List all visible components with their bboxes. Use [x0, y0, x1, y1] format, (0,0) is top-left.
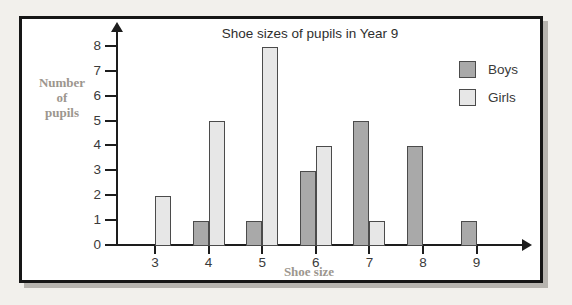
y-axis-tick — [105, 169, 117, 171]
legend-item-boys: Boys — [459, 61, 518, 78]
bar-boys-size-4 — [193, 221, 209, 246]
bar-boys-size-7 — [353, 121, 369, 246]
y-axis-tick — [105, 219, 117, 221]
x-axis-tick-label: 4 — [194, 255, 224, 270]
chart-title: Shoe sizes of pupils in Year 9 — [120, 26, 500, 41]
x-axis-tick — [315, 246, 317, 254]
y-axis-tick-label: 6 — [75, 88, 101, 103]
x-axis-arrow-icon — [522, 239, 532, 251]
bar-girls-size-7 — [369, 221, 385, 246]
legend: BoysGirls — [459, 61, 518, 117]
legend-swatch-girls — [459, 89, 476, 106]
x-axis-tick-label: 8 — [408, 255, 438, 270]
bar-girls-size-3 — [155, 196, 171, 246]
bar-girls-size-6 — [316, 146, 332, 246]
y-axis-tick-label: 0 — [75, 237, 101, 252]
legend-item-girls: Girls — [459, 89, 518, 106]
x-axis-tick — [208, 246, 210, 254]
y-axis — [116, 31, 118, 245]
bar-girls-size-5 — [262, 47, 278, 246]
x-axis-tick-label: 3 — [140, 255, 170, 270]
y-axis-tick — [105, 70, 117, 72]
x-axis-tick — [154, 246, 156, 254]
y-axis-tick — [105, 244, 117, 246]
bar-boys-size-5 — [246, 221, 262, 246]
y-axis-tick — [105, 120, 117, 122]
legend-label-boys: Boys — [488, 62, 518, 77]
y-axis-tick-label: 1 — [75, 212, 101, 227]
y-axis-tick — [105, 45, 117, 47]
bar-girls-size-4 — [209, 121, 225, 246]
bar-boys-size-8 — [407, 146, 423, 246]
x-axis-tick — [476, 246, 478, 254]
x-axis-tick-label: 9 — [462, 255, 492, 270]
y-axis-tick — [105, 194, 117, 196]
y-axis-tick-label: 7 — [75, 63, 101, 78]
y-axis-tick-label: 5 — [75, 113, 101, 128]
chart-panel: Shoe sizes of pupils in Year 9 Number of… — [19, 16, 543, 283]
y-axis-tick — [105, 144, 117, 146]
y-axis-tick-label: 4 — [75, 137, 101, 152]
y-axis-tick-label: 3 — [75, 162, 101, 177]
bar-boys-size-9 — [461, 221, 477, 246]
y-axis-tick-label: 8 — [75, 38, 101, 53]
y-axis-tick — [105, 95, 117, 97]
legend-swatch-boys — [459, 61, 476, 78]
legend-label-girls: Girls — [488, 90, 516, 105]
y-axis-tick-label: 2 — [75, 187, 101, 202]
x-axis-tick — [261, 246, 263, 254]
x-axis-tick — [368, 246, 370, 254]
x-axis-label: Shoe size — [249, 264, 369, 280]
x-axis-tick — [422, 246, 424, 254]
bar-boys-size-6 — [300, 171, 316, 246]
